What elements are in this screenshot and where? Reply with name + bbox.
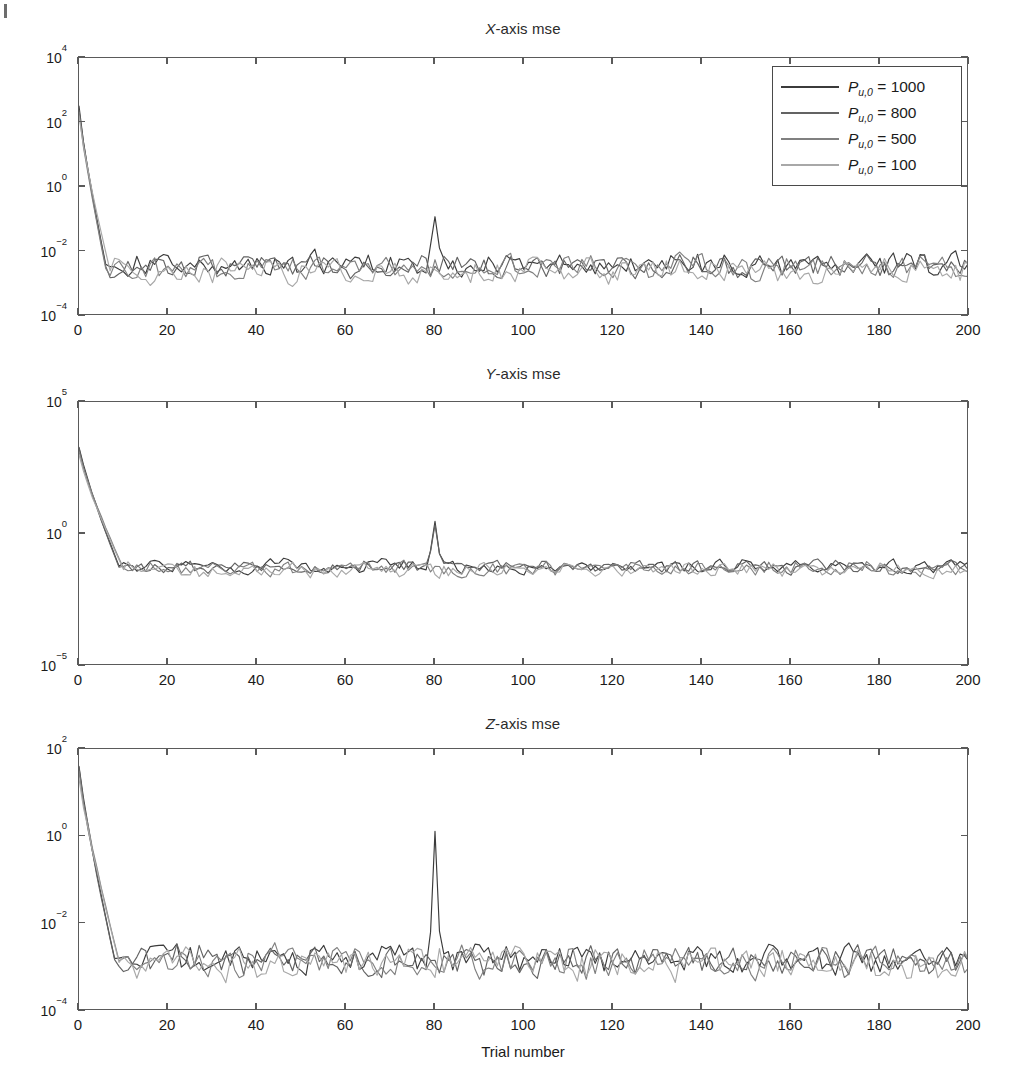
x-tick [166, 1003, 167, 1010]
x-tick [700, 1003, 701, 1010]
x-tick-label: 60 [337, 1016, 354, 1033]
legend-symbol: P [848, 104, 858, 121]
y-tick-right [961, 835, 968, 836]
x-tick [878, 1003, 879, 1010]
x-tick-top [344, 748, 345, 755]
x-tick-top [611, 748, 612, 755]
x-tick-label: 40 [248, 1016, 265, 1033]
legend-item-label: Pu,0 = 800 [848, 104, 917, 122]
x-tick-label: 20 [159, 1016, 176, 1033]
legend-value: 800 [891, 104, 917, 121]
x-tick-top [166, 748, 167, 755]
x-tick [611, 1003, 612, 1010]
y-tick-label: 10−2 [0, 914, 67, 932]
y-tick-label-base: 10 [41, 1003, 57, 1019]
x-tick [522, 1003, 523, 1010]
x-tick-top [967, 748, 968, 755]
panel-title-axis-letter: Z [486, 715, 495, 732]
y-tick-label-exponent: −2 [56, 908, 67, 919]
figure-mse-convergence: X-axis mse020406080100120140160180200104… [0, 0, 1022, 1086]
panel-title-suffix: -axis mse [495, 715, 560, 732]
y-tick-right [961, 922, 968, 923]
x-tick-top [522, 748, 523, 755]
x-tick-top [789, 748, 790, 755]
legend-equals: = [873, 78, 891, 95]
y-tick [78, 1009, 85, 1010]
x-tick-top [700, 748, 701, 755]
y-tick-label-base: 10 [46, 828, 62, 844]
x-tick-label: 180 [866, 1016, 891, 1033]
legend-item[interactable]: Pu,0 = 500 [781, 126, 952, 152]
x-tick [255, 1003, 256, 1010]
legend-equals: = [873, 130, 891, 147]
legend-item[interactable]: Pu,0 = 1000 [781, 74, 952, 100]
x-tick-label: 120 [599, 1016, 624, 1033]
x-tick-label: 100 [510, 1016, 535, 1033]
x-tick [344, 1003, 345, 1010]
legend-subscript: u,0 [858, 164, 873, 176]
y-tick-label: 10−4 [0, 1001, 67, 1019]
legend-item-label: Pu,0 = 100 [848, 156, 917, 174]
legend-line-swatch [781, 164, 839, 166]
legend: Pu,0 = 1000Pu,0 = 800Pu,0 = 500Pu,0 = 10… [772, 66, 962, 186]
legend-line-swatch [781, 112, 839, 114]
y-tick-label: 102 [0, 739, 67, 757]
legend-line-swatch [781, 86, 839, 88]
legend-item[interactable]: Pu,0 = 800 [781, 100, 952, 126]
legend-value: 1000 [891, 78, 925, 95]
legend-symbol: P [848, 78, 858, 95]
y-tick-label-exponent: 2 [62, 733, 67, 744]
legend-item[interactable]: Pu,0 = 100 [781, 152, 952, 178]
x-tick-top [255, 748, 256, 755]
x-tick-top [433, 748, 434, 755]
series-canvas [79, 749, 968, 1010]
y-tick-right [961, 1009, 968, 1010]
plot-area [78, 748, 968, 1010]
y-tick-label: 100 [0, 827, 67, 845]
legend-line-swatch [781, 138, 839, 140]
series-line [79, 771, 968, 980]
x-tick [789, 1003, 790, 1010]
x-tick-label: 140 [688, 1016, 713, 1033]
x-tick-label: 200 [955, 1016, 980, 1033]
x-tick-top [878, 748, 879, 755]
x-tick-label: 0 [74, 1016, 82, 1033]
y-tick-label-exponent: −4 [56, 995, 67, 1006]
series-line [79, 768, 968, 979]
y-tick-label-base: 10 [41, 915, 57, 931]
y-tick-label-exponent: 0 [62, 821, 67, 832]
y-tick [78, 835, 85, 836]
legend-subscript: u,0 [858, 112, 873, 124]
legend-equals: = [873, 104, 891, 121]
legend-symbol: P [848, 156, 858, 173]
x-tick-label: 160 [777, 1016, 802, 1033]
x-tick-top [77, 748, 78, 755]
y-tick-right [961, 747, 968, 748]
series-line [79, 779, 968, 983]
y-tick [78, 922, 85, 923]
panel-title: Z-axis mse [78, 715, 968, 732]
legend-value: 100 [891, 156, 917, 173]
legend-item-label: Pu,0 = 500 [848, 130, 917, 148]
legend-value: 500 [891, 130, 917, 147]
y-tick-label-base: 10 [46, 741, 62, 757]
legend-subscript: u,0 [858, 86, 873, 98]
series-line [79, 766, 968, 975]
legend-symbol: P [848, 130, 858, 147]
x-axis-label: Trial number [78, 1043, 968, 1060]
legend-equals: = [873, 156, 891, 173]
x-tick-label: 80 [426, 1016, 443, 1033]
y-tick [78, 747, 85, 748]
x-tick [433, 1003, 434, 1010]
legend-item-label: Pu,0 = 1000 [848, 78, 925, 96]
legend-subscript: u,0 [858, 138, 873, 150]
